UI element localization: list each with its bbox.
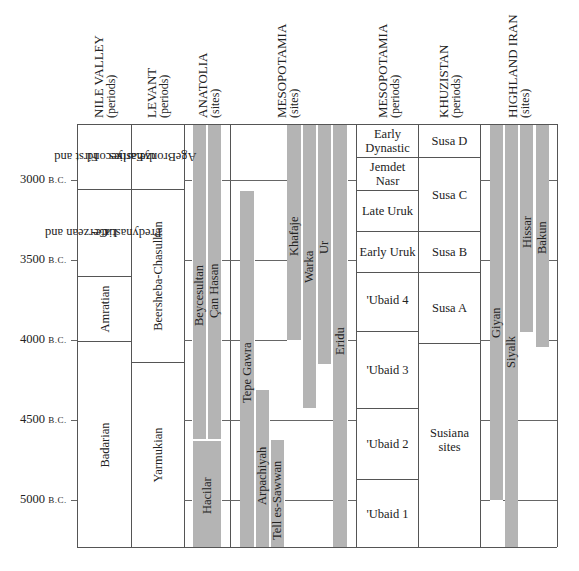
period-label: Amratian (98, 285, 112, 332)
period-label: Susa B (432, 245, 467, 259)
gridline (348, 340, 356, 341)
period-susa-d: Susa D (419, 125, 480, 157)
column-border (480, 124, 481, 547)
site-label-bakun: Bakun (536, 221, 549, 254)
period-susa-a: Susa A (419, 273, 480, 343)
gridline (285, 500, 333, 501)
site-label-khafaje: Khafaje (288, 216, 301, 256)
gridline (230, 500, 240, 501)
date-era: B.C. (48, 495, 67, 505)
header-mesopotamia-sites: MESOPOTAMIA (sites) (275, 24, 301, 118)
site-label-tepe-gawra: Tepe Gawra (241, 342, 254, 403)
period-beersheba-chasullian: Beersheba-Chasullian (132, 190, 184, 362)
gridline (480, 420, 490, 421)
period-label-line: Early (374, 127, 401, 141)
gridline (184, 500, 192, 501)
gridline (549, 340, 557, 341)
period-label-line: sites (438, 440, 460, 454)
gridline (518, 420, 557, 421)
period-early-dynastic: EarlyDynastic (357, 125, 418, 157)
header-levant: LEVANT (periods) (145, 68, 171, 118)
period-ubaid-2: 'Ubaid 2 (357, 409, 418, 479)
date-label-5000: 5000 B.C. (20, 492, 67, 507)
period-susa-c: Susa C (419, 158, 480, 231)
site-label-warka: Warka (303, 251, 316, 283)
date-year: 5000 (20, 492, 45, 506)
header-kind: (periods) (450, 45, 463, 118)
period-yarmukian: Yarmukian (132, 363, 184, 547)
period-early-bronze-age: EarlyBronzeAge (132, 125, 184, 189)
period-label-line: Nasr (376, 174, 400, 188)
period-label: 'Ubaid 3 (366, 363, 408, 377)
period-ubaid-3: 'Ubaid 3 (357, 332, 418, 408)
date-era: B.C. (48, 175, 67, 185)
header-nile-valley: NILE VALLEY (periods) (92, 35, 118, 118)
gridline (348, 420, 356, 421)
period-label-line: Susiana (430, 426, 469, 440)
period-label: Badarian (98, 422, 112, 467)
gridline (549, 260, 557, 261)
period-late-uruk: Late Uruk (357, 191, 418, 231)
period-early-uruk: Early Uruk (357, 232, 418, 272)
gridline (184, 260, 192, 261)
gridline (222, 420, 230, 421)
period-jemdet-nasr: JemdetNasr (357, 158, 418, 190)
gridline (503, 500, 505, 501)
period-ubaid-1: 'Ubaid 1 (357, 480, 418, 547)
site-label-giyan: Giyan (490, 307, 503, 338)
gridline (348, 500, 356, 501)
period-label: 'Ubaid 2 (366, 437, 408, 451)
gridline (480, 500, 490, 501)
date-year: 3000 (20, 172, 45, 186)
date-era: B.C. (48, 415, 67, 425)
gridline (230, 340, 240, 341)
period-badarian: Badarian (78, 342, 131, 547)
period-label: Late Uruk (362, 204, 413, 218)
site-label-can-hasan: Çan Hasan (208, 264, 221, 319)
period-label-line: Jemdet (370, 160, 405, 174)
gridline (184, 340, 192, 341)
header-kind: (periods) (389, 24, 402, 118)
site-label-hissar: Hissar (521, 216, 534, 248)
gridline (184, 420, 192, 421)
gridline (518, 500, 557, 501)
gridline (348, 180, 356, 181)
header-anatolia: ANATOLIA (sites) (196, 53, 222, 118)
period-susiana-sites: Susianasites (419, 344, 480, 536)
gridline (230, 180, 287, 181)
header-highland-iran: HIGHLAND IRAN (sites) (506, 14, 532, 118)
header-mesopotamia-periods: MESOPOTAMIA (periods) (376, 24, 402, 118)
period-amratian: Amratian (78, 277, 131, 341)
period-label: Susa A (432, 301, 467, 315)
gridline (255, 340, 287, 341)
site-label-arpachiyah: Arpachiyah (256, 447, 269, 505)
period-label: Yarmukian (151, 428, 165, 483)
gridline (222, 260, 230, 261)
site-label-siyalk: Siyalk (505, 336, 518, 368)
date-year: 3500 (20, 252, 45, 266)
table-bottom-border (77, 547, 557, 548)
date-era: B.C. (48, 255, 67, 265)
gridline (270, 420, 333, 421)
column-border (184, 124, 185, 547)
site-label-tell-es-sawwan: Tell es-Sawwan (271, 461, 284, 540)
column-border (230, 124, 231, 547)
gridline (480, 180, 490, 181)
date-year: 4500 (20, 412, 45, 426)
gridline (184, 180, 192, 181)
date-label-4000: 4000 B.C. (20, 332, 67, 347)
site-label-beycesultan: Beycesultan (193, 265, 206, 326)
gridline (230, 420, 240, 421)
gridline (480, 260, 490, 261)
period-susa-b: Susa B (419, 232, 480, 272)
date-era: B.C. (48, 335, 67, 345)
column-border (557, 124, 558, 547)
period-label: 'Ubaid 1 (366, 507, 408, 521)
period-label-line: Age (168, 150, 204, 164)
header-kind: (periods) (105, 35, 118, 118)
period-label: Susa D (432, 134, 468, 148)
gridline (255, 260, 287, 261)
period-label: Susa C (432, 188, 467, 202)
header-khuzistan: KHUZISTAN (periods) (437, 45, 463, 118)
site-label-ur: Ur (318, 241, 331, 254)
